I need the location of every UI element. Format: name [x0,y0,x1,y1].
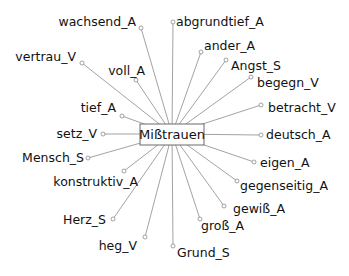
node-dot [134,78,138,82]
node-label: Grund_S [177,245,230,260]
node-label: groß_A [201,218,245,233]
node-dot [235,179,239,183]
node-label: Mensch_S [22,150,84,165]
center-label: Mißtrauen [139,127,205,142]
node-dot [122,169,126,173]
node-dot [120,114,124,118]
node-label: betracht_V [268,100,336,115]
node-label: eigen_A [260,155,310,170]
node-dot [80,61,84,65]
node-dot [249,75,253,79]
edge [172,134,173,246]
node-dot [101,132,105,136]
node-label: voll_A [108,63,145,78]
node-label: heg_V [99,238,138,253]
edge [145,134,172,237]
node-dot [86,156,90,160]
node-dot [111,217,115,221]
collocation-diagram: abgrundtief_Awachsend_Avertrau_Vvoll_Aan… [0,0,349,276]
node-dot [171,244,175,248]
node-label: gewiß_A [233,201,285,216]
edge [172,60,226,134]
node-label: abgrundtief_A [176,14,264,29]
edge [172,22,173,134]
node-dot [259,133,263,137]
node-dot [259,103,263,107]
node-dot [171,20,175,24]
node-label: deutsch_A [266,127,331,142]
node-label: setz_V [57,126,98,141]
edge [172,134,200,219]
node-label: vertrau_V [15,49,76,64]
node-label: gegenseitig_A [240,178,328,193]
node-dot [224,58,228,62]
node-label: begegn_V [257,75,319,90]
node-label: Herz_S [63,212,106,227]
node-label: ander_A [204,38,256,53]
edge [172,52,201,134]
node-label: Angst_S [231,58,281,73]
node-label: tief_A [81,100,117,115]
node-dot [252,160,256,164]
node-dot [222,204,226,208]
node-label: konstruktiv_A [53,174,138,189]
node-label: wachsend_A [58,14,136,29]
center-node: Mißtrauen [139,124,205,145]
node-dot [143,235,147,239]
edge [141,28,172,134]
node-dot [139,26,143,30]
node-dot [199,50,203,54]
